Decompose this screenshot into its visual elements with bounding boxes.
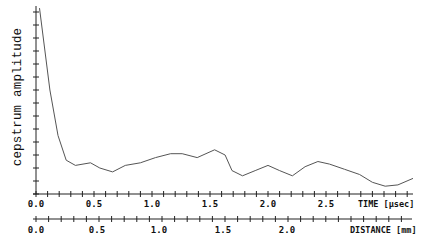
time-axis-title: TIME [µsec]	[358, 199, 414, 209]
y-axis	[33, 6, 39, 194]
distance-tick-label: 1.0	[151, 225, 167, 235]
distance-tick-label: 1.5	[215, 225, 231, 235]
time-tick-label: 2.0	[260, 199, 276, 209]
plot-area	[0, 0, 425, 246]
distance-tick-label: 0.0	[28, 225, 44, 235]
distance-axis	[33, 216, 412, 222]
distance-tick-label: 2.0	[279, 225, 295, 235]
time-axis	[33, 191, 413, 197]
distance-tick-label: 0.5	[89, 225, 105, 235]
time-tick-label: 0.0	[28, 199, 44, 209]
time-tick-label: 1.0	[144, 199, 160, 209]
time-tick-label: 0.5	[86, 199, 102, 209]
distance-axis-title: DISTANCE [mm]	[350, 225, 417, 235]
cepstrum-chart: cepstrum amplitude 0.0 0.5 1.0 1.5 2.0 2…	[0, 0, 425, 246]
time-tick-label: 1.5	[202, 199, 218, 209]
time-tick-label: 2.5	[318, 199, 334, 209]
cepstrum-line	[40, 8, 414, 186]
y-axis-title: cepstrum amplitude	[11, 17, 25, 177]
